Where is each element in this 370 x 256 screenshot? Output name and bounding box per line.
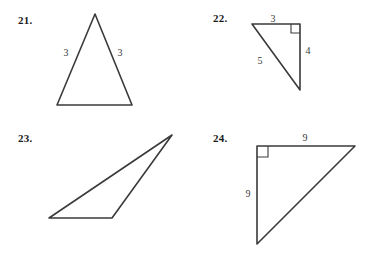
side-label-22-right: 4 [306,45,311,56]
side-label-21-left: 3 [64,47,69,58]
triangle-outline-21 [57,14,132,105]
right-angle-marker-icon-22 [291,24,300,33]
side-label-22-top: 3 [271,13,276,24]
triangle-outline-24 [257,146,355,244]
side-label-21-right: 3 [118,47,123,58]
right-angle-marker-icon-24 [257,146,268,157]
triangle-figure-23 [0,128,185,256]
side-label-24-left: 9 [246,188,251,199]
triangle-outline-23 [49,135,172,218]
worksheet-page: 21. 3 3 22. 3 4 5 23. 24. 9 9 [0,0,370,256]
triangle-figure-21 [0,0,185,128]
triangle-figure-24 [185,128,370,256]
problem-22: 22. 3 4 5 [185,0,370,128]
side-label-22-hypotenuse: 5 [258,55,263,66]
triangle-figure-22 [185,0,370,128]
problem-21: 21. 3 3 [0,0,185,128]
problem-24: 24. 9 9 [185,128,370,256]
side-label-24-top: 9 [303,132,308,143]
problem-23: 23. [0,128,185,256]
